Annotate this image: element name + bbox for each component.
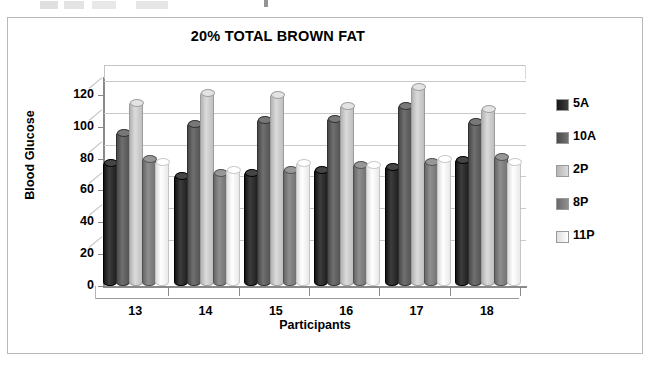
chart-legend: 5A10A2P8P11P (556, 96, 640, 261)
y-axis-label: Blood Glucose (23, 95, 37, 215)
document-frame: 20% TOTAL BROWN FAT Blood Glucose 131415… (7, 17, 643, 354)
bar-cap (495, 153, 509, 161)
bar-10A-16 (327, 117, 341, 286)
floor-front-edge (95, 298, 519, 299)
legend-swatch-icon (556, 231, 569, 243)
gridline (104, 145, 526, 146)
y-tick-label: 0 (54, 278, 94, 292)
floor-left-edge (95, 286, 106, 299)
x-tick-mark (168, 287, 169, 296)
bar-11P-17 (437, 157, 451, 286)
bar-2P-13 (129, 101, 143, 286)
y-tick-label: 120 (54, 87, 94, 101)
bar-cap (130, 99, 144, 107)
bar-cap (156, 158, 170, 166)
bar-cap (482, 105, 496, 113)
bar-cap (412, 83, 426, 91)
x-tick-mark (239, 287, 240, 296)
bar-5A-13 (103, 161, 117, 286)
bar-11P-18 (507, 160, 521, 286)
backwall-top-edge (104, 65, 526, 66)
bar-cap (297, 159, 311, 167)
legend-label: 2P (573, 162, 588, 176)
bar-11P-13 (155, 160, 169, 286)
bar-5A-16 (314, 168, 328, 286)
bar-cap (227, 166, 241, 174)
bar-8P-13 (142, 157, 156, 286)
legend-label: 10A (573, 129, 596, 143)
legend-label: 5A (573, 96, 589, 110)
x-tick-label-13: 13 (105, 304, 165, 318)
bar-10A-18 (468, 120, 482, 286)
backwall-right-edge (525, 65, 526, 79)
scan-artifact-dot (264, 0, 268, 7)
bar-10A-15 (257, 118, 271, 286)
bar-5A-15 (244, 171, 258, 286)
bar-cap (341, 102, 355, 110)
bar-cap (508, 158, 522, 166)
legend-label: 11P (573, 228, 595, 242)
scan-artifact-top-text (40, 1, 250, 9)
y-tick-label: 100 (54, 119, 94, 133)
legend-item-10A[interactable]: 10A (556, 129, 640, 162)
legend-swatch-icon (556, 99, 569, 111)
y-tick-label: 40 (54, 214, 94, 228)
legend-swatch-icon (556, 165, 569, 177)
gridline (104, 113, 526, 114)
bar-8P-14 (213, 171, 227, 286)
x-tick-mark (309, 287, 310, 296)
bar-cap (271, 91, 285, 99)
bar-5A-17 (385, 165, 399, 286)
bar-chart: 20% TOTAL BROWN FAT Blood Glucose 131415… (8, 18, 644, 355)
bar-5A-14 (174, 174, 188, 286)
bar-2P-18 (481, 107, 495, 286)
y-tick-label: 20 (54, 246, 94, 260)
bar-2P-14 (200, 91, 214, 286)
bar-10A-17 (398, 104, 412, 286)
bar-11P-15 (296, 161, 310, 286)
x-tick-label-15: 15 (246, 304, 306, 318)
x-tick-label-14: 14 (176, 304, 236, 318)
backwall-left-edge (104, 65, 105, 79)
x-tick-label-17: 17 (387, 304, 447, 318)
plot-area: 131415161718 (104, 79, 526, 286)
bar-2P-17 (411, 85, 425, 286)
bar-11P-16 (366, 163, 380, 286)
bar-8P-17 (424, 160, 438, 286)
bar-11P-14 (226, 168, 240, 286)
bar-5A-18 (455, 158, 469, 286)
legend-item-2P[interactable]: 2P (556, 162, 640, 195)
y-tick-label: 60 (54, 182, 94, 196)
bar-cap (201, 89, 215, 97)
plot-floor (104, 286, 526, 299)
legend-swatch-icon (556, 198, 569, 210)
x-tick-label-16: 16 (316, 304, 376, 318)
x-tick-mark (450, 287, 451, 296)
y-tick-mark (98, 159, 105, 160)
legend-item-8P[interactable]: 8P (556, 195, 640, 228)
bar-8P-15 (283, 168, 297, 286)
y-tick-label: 80 (54, 151, 94, 165)
x-tick-mark (379, 287, 380, 296)
y-tick-mark (98, 95, 105, 96)
bar-cap (367, 161, 381, 169)
gridline (104, 81, 526, 82)
bar-10A-13 (116, 131, 130, 286)
y-tick-mark (98, 127, 105, 128)
chart-title: 20% TOTAL BROWN FAT (8, 28, 548, 44)
bar-cap (438, 155, 452, 163)
bar-8P-16 (353, 163, 367, 286)
bar-2P-16 (340, 104, 354, 286)
bar-8P-18 (494, 155, 508, 286)
x-tick-mark (520, 287, 521, 296)
x-tick-label-18: 18 (457, 304, 517, 318)
legend-item-11P[interactable]: 11P (556, 228, 640, 261)
legend-item-5A[interactable]: 5A (556, 96, 640, 129)
legend-swatch-icon (556, 132, 569, 144)
bar-2P-15 (270, 93, 284, 286)
legend-label: 8P (573, 195, 588, 209)
x-axis-label: Participants (104, 318, 526, 332)
bar-10A-14 (187, 122, 201, 286)
